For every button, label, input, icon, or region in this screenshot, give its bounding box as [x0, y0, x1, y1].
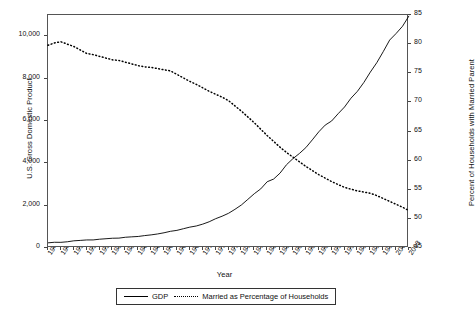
solid-line-swatch-icon	[124, 296, 148, 297]
y-axis-left-tick-label: 0	[0, 242, 40, 249]
series-canvas	[47, 14, 410, 249]
y-axis-left-tick-label: 2,000	[0, 200, 40, 207]
legend-label-gdp: GDP	[152, 292, 168, 301]
dotted-line-swatch-icon	[174, 296, 198, 297]
x-axis-title: Year	[0, 270, 449, 279]
y-axis-right-tick-label: 80	[414, 38, 454, 45]
y-axis-left-tick-label: 4,000	[0, 157, 40, 164]
y-axis-right-tick-label: 55	[414, 184, 454, 191]
legend-label-married: Married as Percentage of Households	[202, 292, 328, 301]
y-axis-right-tick-label: 65	[414, 126, 454, 133]
y-axis-right-tick-label: 70	[414, 96, 454, 103]
y-axis-left-tick-label: 8,000	[0, 73, 40, 80]
married-percentage-line	[48, 42, 409, 211]
chart-legend: GDP Married as Percentage of Households	[116, 288, 336, 305]
y-axis-right-tick-label: 75	[414, 67, 454, 74]
y-axis-left-tick-label: 6,000	[0, 115, 40, 122]
y-axis-right-title: Percent of Households with Married Paren…	[467, 18, 476, 248]
y-axis-right-tick-label: 50	[414, 213, 454, 220]
gdp-line	[48, 16, 409, 243]
legend-item-married: Married as Percentage of Households	[174, 292, 328, 301]
y-axis-right-tick-label: 60	[414, 155, 454, 162]
y-axis-right-tick-label: 85	[414, 9, 454, 16]
plot-area	[47, 14, 408, 247]
legend-item-gdp: GDP	[124, 292, 168, 301]
y-axis-left-tick-label: 10,000	[0, 30, 40, 37]
y-axis-left-title: U.S. Gross Domestic Product	[25, 34, 34, 224]
